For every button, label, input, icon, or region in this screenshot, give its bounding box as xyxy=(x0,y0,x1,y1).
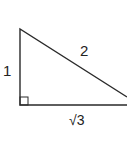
triangle-outline xyxy=(20,29,127,105)
triangle-figure xyxy=(0,0,127,149)
horizontal-leg-label: √3 xyxy=(69,113,84,127)
hypotenuse-label: 2 xyxy=(80,43,88,58)
vertical-leg-label: 1 xyxy=(3,63,11,78)
right-angle-marker xyxy=(20,97,28,105)
